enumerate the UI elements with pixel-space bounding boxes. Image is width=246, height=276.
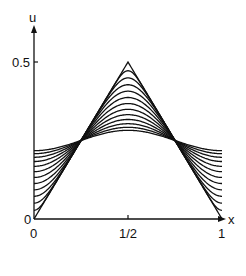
y-axis-arrow-icon bbox=[31, 25, 37, 33]
solution-curve bbox=[34, 78, 222, 203]
x-tick-label-half: 1/2 bbox=[119, 226, 137, 241]
x-tick-label-1: 1 bbox=[218, 226, 225, 241]
y-tick-label-0.5: 0.5 bbox=[12, 55, 30, 70]
y-tick-label-0: 0 bbox=[24, 212, 31, 227]
y-axis-label: u bbox=[29, 10, 36, 25]
solution-curve bbox=[34, 62, 222, 219]
solution-curve bbox=[34, 85, 222, 197]
solution-curves bbox=[34, 62, 222, 219]
x-axis-label: x bbox=[228, 212, 235, 227]
x-axis-arrow-icon bbox=[218, 216, 226, 222]
solution-curve bbox=[34, 91, 222, 190]
chart: u x 0.5 0 0 1/2 1 bbox=[0, 0, 246, 276]
x-tick-label-0: 0 bbox=[30, 226, 37, 241]
